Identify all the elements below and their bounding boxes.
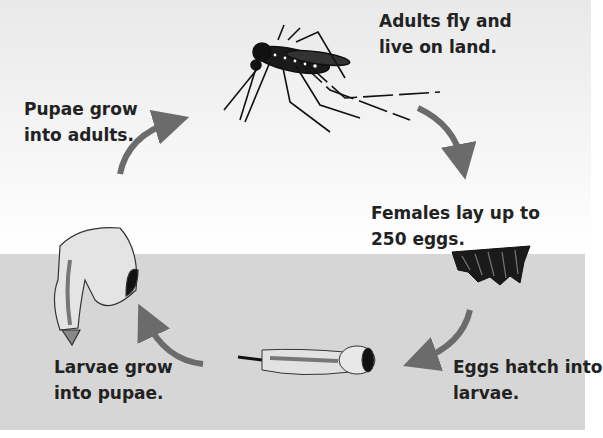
label-larvae: Eggs hatch into larvae. — [453, 354, 603, 406]
arrow-eggs-to-larvae — [420, 310, 470, 360]
mosquito-larva — [238, 346, 375, 375]
label-eggs: Females lay up to 250 eggs. — [371, 200, 540, 252]
arrow-adult-to-eggs — [418, 108, 462, 162]
label-adults: Adults fly and live on land. — [379, 8, 512, 60]
label-larvae-to-pupae: Larvae grow into pupae. — [54, 354, 173, 406]
label-pupae-to-adults: Pupae grow into adults. — [24, 96, 138, 148]
mosquito-pupa — [54, 228, 138, 345]
